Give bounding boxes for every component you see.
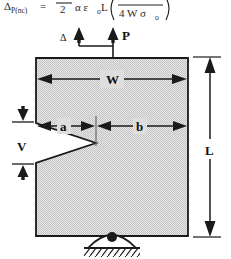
notch-arrow-top-icon xyxy=(18,106,29,121)
notch-height-dimension: V xyxy=(12,106,34,180)
support-pin-hole-icon xyxy=(107,232,117,242)
ligament-label: b xyxy=(136,119,143,134)
displacement-label: Δ xyxy=(60,32,67,43)
width-label: W xyxy=(106,72,119,87)
figure-canvas: Δ P(nc) = 2 α ε o L 4 W σ o xyxy=(0,0,231,259)
equation-lhs-subscript: P(nc) xyxy=(11,6,28,15)
length-arrow-top-icon xyxy=(205,57,216,73)
equation-factors-tail: L xyxy=(101,1,108,13)
equation-block: Δ P(nc) = 2 α ε o L 4 W σ o xyxy=(4,0,169,22)
length-label: L xyxy=(205,143,214,158)
equation-inner-denominator-subscript: o xyxy=(155,13,159,22)
equation-bracket-open xyxy=(111,0,114,20)
length-arrow-bottom-icon xyxy=(205,221,216,237)
notch-height-label: V xyxy=(17,139,27,154)
length-dimension: L xyxy=(193,57,221,237)
displacement-arrow-icon xyxy=(74,27,85,43)
equation-equals: = xyxy=(40,0,46,12)
crack-length-label: a xyxy=(60,119,67,134)
load-arrow-icon xyxy=(108,27,119,43)
equation-fraction-denominator: 2 xyxy=(60,3,66,15)
equation-factors: α ε xyxy=(75,1,89,13)
technical-diagram: Δ P(nc) = 2 α ε o L 4 W σ o xyxy=(0,0,231,259)
equation-inner-denominator: 4 W σ xyxy=(119,7,146,19)
equation-bracket-close xyxy=(166,0,169,20)
ground-hatching-icon xyxy=(84,248,140,257)
load-label: P xyxy=(122,28,130,43)
load-group: P Δ xyxy=(60,27,130,58)
notch-arrow-bottom-icon xyxy=(18,165,29,180)
